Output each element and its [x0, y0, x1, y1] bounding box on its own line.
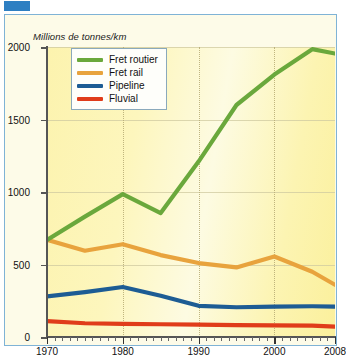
- blue-tab-marker: [4, 1, 30, 11]
- legend-swatch-icon: [77, 97, 103, 101]
- x-tick-minor: [312, 337, 313, 341]
- legend-label: Fret rail: [109, 67, 143, 78]
- x-tick-minor: [229, 337, 230, 341]
- figure-frame: Millions de tonnes/km 0500100015002000 1…: [4, 14, 337, 346]
- x-tick-minor: [161, 337, 162, 341]
- series-line-pipeline: [47, 287, 335, 307]
- x-tick-minor: [70, 337, 71, 341]
- x-tick-major: [47, 337, 48, 344]
- x-tick-major: [274, 337, 275, 344]
- legend-item-fret-rail: Fret rail: [77, 66, 158, 79]
- legend-swatch-icon: [77, 84, 103, 88]
- x-tick-minor: [259, 337, 260, 341]
- x-tick-label: 1990: [187, 346, 209, 357]
- y-tick: [41, 47, 47, 49]
- x-tick-minor: [244, 337, 245, 341]
- legend-item-fluvial: Fluvial: [77, 92, 158, 105]
- x-tick-minor: [252, 337, 253, 341]
- x-tick-minor: [130, 337, 131, 341]
- x-tick-minor: [168, 337, 169, 341]
- legend-item-pipeline: Pipeline: [77, 79, 158, 92]
- y-tick: [41, 265, 47, 267]
- x-tick-label: 2000: [263, 346, 285, 357]
- x-tick-label: 1970: [36, 346, 58, 357]
- legend-item-fret-routier: Fret routier: [77, 53, 158, 66]
- x-tick-minor: [146, 337, 147, 341]
- x-tick-label: 2008: [324, 346, 346, 357]
- x-tick-minor: [100, 337, 101, 341]
- x-tick-minor: [92, 337, 93, 341]
- x-tick-minor: [236, 337, 237, 341]
- x-tick-minor: [77, 337, 78, 341]
- y-tick-label: 1500: [8, 114, 30, 125]
- x-tick-minor: [183, 337, 184, 341]
- x-tick-minor: [282, 337, 283, 341]
- x-tick-minor: [206, 337, 207, 341]
- y-tick-label: 1000: [8, 187, 30, 198]
- legend-swatch-icon: [77, 71, 103, 75]
- x-tick-minor: [191, 337, 192, 341]
- x-tick-minor: [214, 337, 215, 341]
- x-tick-minor: [108, 337, 109, 341]
- chart-axis-title: Millions de tonnes/km: [33, 31, 126, 42]
- x-tick-minor: [115, 337, 116, 341]
- chart-legend: Fret routier Fret rail Pipeline Fluvial: [71, 48, 167, 110]
- x-tick-minor: [62, 337, 63, 341]
- x-tick-major: [123, 337, 124, 344]
- y-tick-label: 500: [13, 259, 30, 270]
- x-tick-major: [199, 337, 200, 344]
- x-tick-minor: [221, 337, 222, 341]
- x-tick-major: [335, 337, 336, 344]
- x-tick-minor: [297, 337, 298, 341]
- x-tick-minor: [320, 337, 321, 341]
- y-tick-label: 0: [24, 332, 30, 343]
- legend-label: Fluvial: [109, 93, 138, 104]
- x-tick-minor: [138, 337, 139, 341]
- legend-label: Fret routier: [109, 54, 158, 65]
- x-tick-minor: [267, 337, 268, 341]
- x-tick-label: 1980: [112, 346, 134, 357]
- series-line-fluvial: [47, 321, 335, 327]
- x-tick-minor: [85, 337, 86, 341]
- y-tick: [41, 120, 47, 122]
- x-tick-minor: [153, 337, 154, 341]
- legend-label: Pipeline: [109, 80, 145, 91]
- legend-swatch-icon: [77, 58, 103, 62]
- x-tick-minor: [305, 337, 306, 341]
- x-tick-minor: [55, 337, 56, 341]
- x-tick-minor: [327, 337, 328, 341]
- y-tick: [41, 192, 47, 194]
- y-tick-label: 2000: [8, 42, 30, 53]
- series-line-fret-rail: [47, 240, 335, 285]
- x-tick-minor: [290, 337, 291, 341]
- x-tick-minor: [176, 337, 177, 341]
